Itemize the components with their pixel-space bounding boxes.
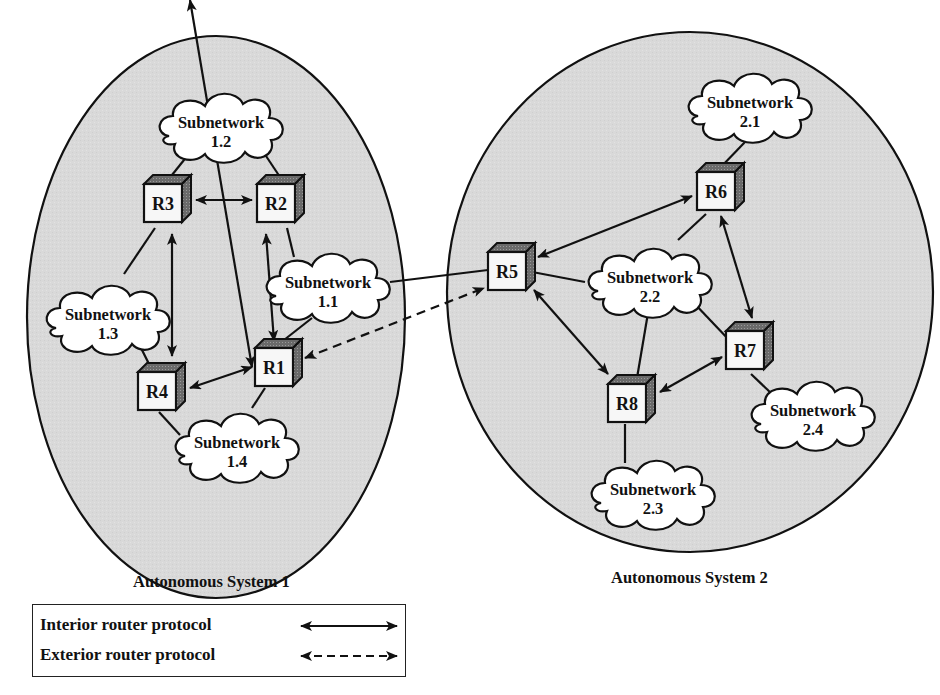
router-r2: R2: [257, 175, 304, 222]
router-r1: R1: [255, 339, 302, 386]
svg-text:Subnetwork: Subnetwork: [770, 401, 857, 420]
svg-text:R8: R8: [616, 394, 638, 414]
svg-text:1.3: 1.3: [98, 324, 119, 343]
subnetwork-1-3: Subnetwork 1.3: [47, 286, 170, 355]
svg-text:R2: R2: [265, 194, 287, 214]
router-r7: R7: [726, 322, 773, 369]
autonomous-system-2-title: Autonomous System 2: [611, 568, 768, 588]
svg-text:2.4: 2.4: [803, 420, 824, 439]
svg-text:Subnetwork: Subnetwork: [285, 273, 372, 292]
svg-text:1.2: 1.2: [211, 132, 232, 151]
legend-line-samples: [33, 605, 407, 678]
svg-text:2.3: 2.3: [643, 499, 664, 518]
svg-text:Subnetwork: Subnetwork: [610, 480, 697, 499]
svg-text:Subnetwork: Subnetwork: [178, 113, 265, 132]
svg-text:Subnetwork: Subnetwork: [707, 93, 794, 112]
router-r4: R4: [138, 363, 185, 410]
svg-text:R3: R3: [152, 194, 174, 214]
subnetwork-2-2: Subnetwork 2.2: [589, 249, 712, 318]
subnetwork-2-1: Subnetwork 2.1: [689, 74, 812, 143]
svg-text:2.1: 2.1: [740, 112, 761, 131]
svg-text:R5: R5: [496, 262, 518, 282]
autonomous-system-1-title: Autonomous System 1: [133, 572, 290, 592]
subnetwork-1-1: Subnetwork 1.1: [267, 254, 390, 323]
svg-text:Subnetwork: Subnetwork: [65, 305, 152, 324]
subnetwork-2-3: Subnetwork 2.3: [592, 461, 715, 530]
router-r6: R6: [697, 163, 744, 210]
svg-text:R6: R6: [705, 182, 727, 202]
router-r8: R8: [608, 375, 655, 422]
svg-text:1.1: 1.1: [318, 292, 339, 311]
svg-text:R4: R4: [146, 382, 168, 402]
svg-text:Subnetwork: Subnetwork: [607, 268, 694, 287]
router-r5: R5: [488, 243, 535, 290]
svg-text:Subnetwork: Subnetwork: [194, 433, 281, 452]
svg-text:2.2: 2.2: [640, 287, 661, 306]
subnetwork-2-4: Subnetwork 2.4: [752, 382, 875, 451]
subnetwork-1-4: Subnetwork 1.4: [176, 414, 299, 483]
svg-text:R7: R7: [734, 341, 756, 361]
svg-text:1.4: 1.4: [227, 452, 248, 471]
router-r3: R3: [144, 175, 191, 222]
svg-text:R1: R1: [263, 358, 285, 378]
legend: Interior router protocol Exterior router…: [32, 604, 406, 677]
subnetwork-1-2: Subnetwork 1.2: [160, 94, 283, 163]
